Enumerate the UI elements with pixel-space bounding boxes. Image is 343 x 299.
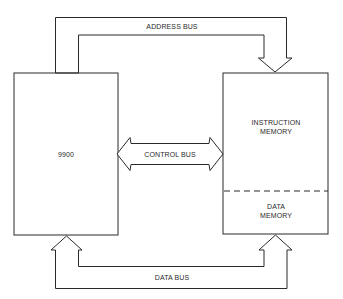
address-bus-label: ADDRESS BUS bbox=[146, 23, 198, 30]
instruction-memory-label-1: INSTRUCTION bbox=[252, 119, 301, 126]
memory-box: INSTRUCTION MEMORY DATA MEMORY bbox=[223, 73, 328, 234]
control-bus-label: CONTROL BUS bbox=[144, 151, 196, 158]
control-bus: CONTROL BUS bbox=[117, 138, 223, 171]
cpu-box: 9900 bbox=[14, 73, 118, 235]
address-bus: ADDRESS BUS bbox=[56, 18, 293, 74]
data-memory-label-1: DATA bbox=[267, 203, 285, 210]
block-diagram: ADDRESS BUS 9900 INSTRUCTION MEMORY DATA… bbox=[0, 0, 343, 299]
instruction-memory-label-2: MEMORY bbox=[260, 128, 292, 135]
data-bus-label: DATA BUS bbox=[155, 274, 190, 281]
data-bus: DATA BUS bbox=[51, 235, 292, 289]
data-memory-label-2: MEMORY bbox=[260, 212, 292, 219]
cpu-label: 9900 bbox=[58, 151, 74, 158]
